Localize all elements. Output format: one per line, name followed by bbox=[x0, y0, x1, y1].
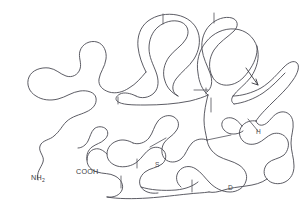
chain-segment-ring-domain-1-outer bbox=[138, 14, 200, 96]
protein-domain-diagram: NH2 COOH S H D bbox=[0, 0, 304, 202]
chain-segment-crescent-join bbox=[232, 96, 234, 104]
domain-label-h: H bbox=[256, 128, 261, 135]
chain-segment-lower-sweep-upper bbox=[141, 182, 198, 190]
disulfide-bond-lower-link bbox=[150, 138, 166, 147]
chain-segment-lower-central-domain bbox=[177, 140, 247, 192]
domain-label-d: D bbox=[228, 184, 233, 191]
chain-segment-ring-domain-2-return bbox=[212, 46, 257, 85]
n-terminus-label: NH2 bbox=[31, 173, 45, 183]
chain-segment-ring-domain-2-outer bbox=[197, 29, 258, 96]
chain-segment-cooh-approach bbox=[78, 127, 108, 160]
disulfide-bond-stem-to-h bbox=[207, 135, 231, 140]
c-terminus-label: COOH bbox=[76, 167, 99, 176]
domain-label-s: S bbox=[155, 161, 160, 168]
chain-segment-ring-domain-1-inner bbox=[136, 21, 188, 98]
chain-segment-right-lower-domain bbox=[239, 112, 294, 184]
annotation-arrow bbox=[246, 68, 258, 85]
chain-segment-inter-ring-connector bbox=[116, 93, 208, 105]
chain-segment-central-stem bbox=[204, 95, 208, 140]
diagram-canvas: NH2 COOH S H D bbox=[0, 0, 304, 202]
